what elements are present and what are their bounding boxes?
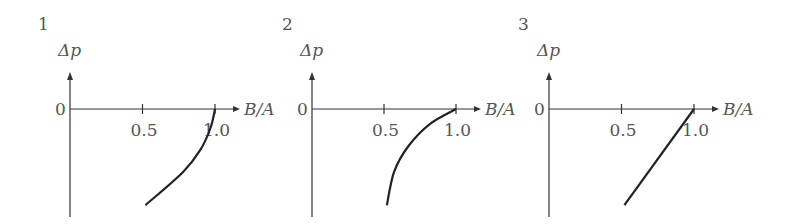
panel-label: 1 <box>38 14 49 34</box>
origin-label: 0 <box>534 99 545 119</box>
y-axis-label: Δp <box>299 40 323 60</box>
x-axis-label: B/A <box>243 99 275 119</box>
y-axis-arrow-icon <box>309 72 315 80</box>
x-tick-label: 1.0 <box>682 120 709 140</box>
x-axis-arrow-icon <box>474 106 481 112</box>
figure: 1ΔpB/A00.51.02ΔpB/A00.51.03ΔpB/A00.51.0 <box>0 0 796 224</box>
x-tick-label: 1.0 <box>444 120 471 140</box>
origin-label: 0 <box>297 99 308 119</box>
origin-label: 0 <box>55 99 66 119</box>
x-axis-label: B/A <box>722 99 754 119</box>
x-axis-label: B/A <box>484 99 516 119</box>
y-axis-arrow-icon <box>546 72 552 80</box>
panel-label: 3 <box>518 14 529 34</box>
x-axis-arrow-icon <box>712 106 719 112</box>
y-axis-label: Δp <box>536 40 560 60</box>
y-axis-label: Δp <box>57 40 81 60</box>
y-axis-arrow-icon <box>67 72 73 80</box>
x-tick-label: 0.5 <box>610 120 637 140</box>
x-axis-arrow-icon <box>233 106 240 112</box>
x-tick-label: 0.5 <box>372 120 399 140</box>
x-tick-label: 0.5 <box>131 120 158 140</box>
panel-label: 2 <box>282 14 293 34</box>
